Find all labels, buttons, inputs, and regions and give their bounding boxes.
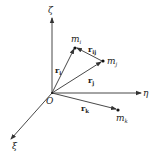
eta-label: η: [143, 88, 149, 98]
particle-mi: [73, 46, 76, 49]
zeta-label: ζ: [48, 5, 54, 15]
origin-point: [51, 92, 53, 94]
mj-label: mj: [107, 56, 118, 68]
xi-label: ξ: [12, 141, 18, 151]
ri-label: ri: [55, 65, 61, 76]
particle-mj: [101, 59, 104, 62]
rk-label: rk: [81, 103, 89, 114]
particle-mk: [116, 108, 119, 111]
particle-system-diagram: ζ η ξ O mi mj mk ri rj rk rij: [0, 0, 153, 154]
mi-label: mi: [71, 34, 82, 45]
origin-label: O: [46, 96, 54, 106]
mk-label: mk: [116, 113, 129, 124]
rj-label: rj: [88, 75, 94, 87]
